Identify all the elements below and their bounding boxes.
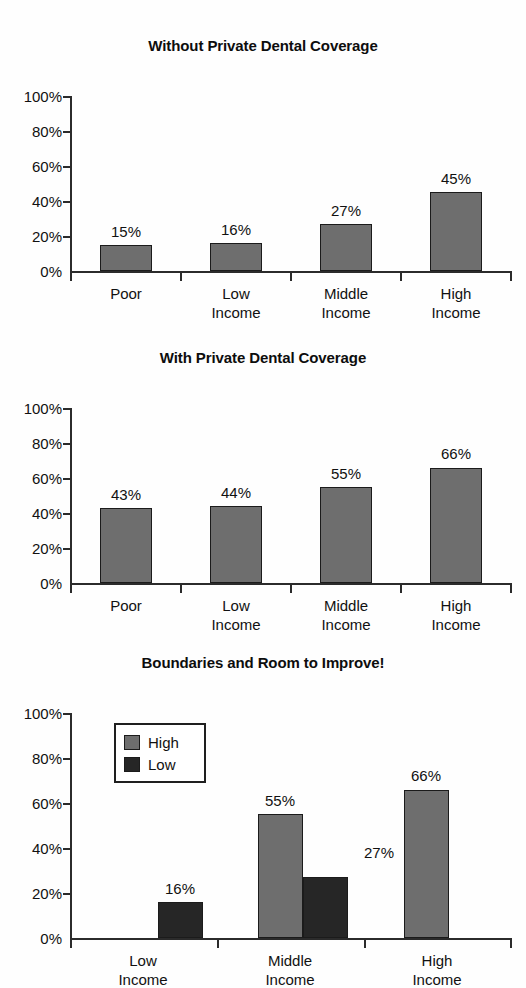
bar-value-low-income: 44%: [210, 485, 262, 501]
chart-3-title: Boundaries and Room to Improve!: [0, 653, 526, 673]
y-tick-label-20: 20%: [0, 229, 62, 244]
bar-value-high-income-high: 66%: [396, 768, 456, 784]
y-tick-label-0: 0%: [0, 576, 62, 591]
chart-3-x-tick-2: [364, 940, 366, 948]
chart-2-category-low-income-line2: Income: [186, 615, 286, 634]
bar-value-low-income-low: 16%: [150, 881, 210, 897]
chart-without-private-dental-coverage: Without Private Dental Coverage 100% 80%…: [0, 36, 526, 316]
chart-1-x-tick-2: [290, 273, 292, 281]
y-tick-label-20: 20%: [0, 886, 62, 901]
page-bottom-artifact: [120, 975, 410, 981]
chart-1-category-middle-income: Middle Income: [296, 284, 396, 322]
legend-item-low[interactable]: Low: [124, 753, 194, 775]
y-tick-label-100: 100%: [0, 401, 62, 416]
chart-3-category-middle-income-line1: Middle: [240, 951, 340, 970]
y-tick-label-60: 60%: [0, 796, 62, 811]
chart-3-y-axis-line: [70, 713, 72, 940]
chart-2-x-tick-0: [70, 585, 72, 593]
chart-2-category-poor: Poor: [76, 596, 176, 615]
bar-value-middle-income: 27%: [320, 203, 372, 219]
y-tick-label-40: 40%: [0, 841, 62, 856]
chart-1-category-middle-income-line1: Middle: [296, 284, 396, 303]
y-tick-label-0: 0%: [0, 931, 62, 946]
chart-3-y-tick-40: [63, 848, 70, 850]
chart-3-y-tick-100: [63, 713, 70, 715]
chart-3-category-high-income: High Income: [387, 951, 487, 988]
bar-high-income-high: [404, 790, 449, 939]
chart-3-x-tick-1: [217, 940, 219, 948]
chart-1-x-tick-4: [510, 273, 512, 281]
chart-2-y-tick-100: [63, 408, 70, 410]
y-tick-label-0: 0%: [0, 264, 62, 279]
bar-value-high-income: 66%: [430, 446, 482, 462]
bar-value-middle-income-high: 55%: [250, 793, 310, 809]
chart-3-category-low-income: Low Income: [93, 951, 193, 988]
chart-2-category-middle-income-line1: Middle: [296, 596, 396, 615]
chart-1-y-tick-100: [63, 96, 70, 98]
chart-1-category-low-income-line2: Income: [186, 303, 286, 322]
chart-2-x-tick-4: [510, 585, 512, 593]
y-tick-label-80: 80%: [0, 751, 62, 766]
chart-1-x-tick-3: [400, 273, 402, 281]
chart-3-y-tick-60: [63, 803, 70, 805]
bar-value-high-income: 45%: [430, 171, 482, 187]
chart-3-category-high-income-line1: High: [387, 951, 487, 970]
chart-1-x-tick-0: [70, 273, 72, 281]
chart-2-category-low-income-line1: Low: [186, 596, 286, 615]
chart-2-x-tick-2: [290, 585, 292, 593]
chart-1-category-middle-income-line2: Income: [296, 303, 396, 322]
legend-label-high: High: [148, 735, 179, 750]
chart-2-category-high-income-line1: High: [406, 596, 506, 615]
chart-2-category-high-income-line2: Income: [406, 615, 506, 634]
chart-1-y-tick-80: [63, 131, 70, 133]
bar-low-income: [210, 243, 262, 271]
legend-item-high[interactable]: High: [124, 731, 194, 753]
chart-1-y-tick-20: [63, 236, 70, 238]
bar-value-middle-income: 55%: [320, 466, 372, 482]
chart-2-title: With Private Dental Coverage: [0, 348, 526, 368]
bar-poor: [100, 245, 152, 271]
chart-3-legend: High Low: [114, 723, 206, 783]
chart-2-category-middle-income-line2: Income: [296, 615, 396, 634]
chart-2-category-poor-line1: Poor: [76, 596, 176, 615]
chart-2-y-axis-line: [70, 408, 72, 585]
chart-2-x-tick-1: [180, 585, 182, 593]
bar-middle-income-high: [258, 814, 303, 938]
chart-2-y-tick-40: [63, 513, 70, 515]
legend-swatch-high-icon: [124, 735, 140, 750]
chart-with-private-dental-coverage: With Private Dental Coverage 100% 80% 60…: [0, 348, 526, 628]
bar-middle-income-low: [303, 877, 348, 938]
chart-3-y-tick-80: [63, 758, 70, 760]
y-tick-label-100: 100%: [0, 706, 62, 721]
chart-3-x-axis-line: [70, 938, 512, 940]
figure-page: Without Private Dental Coverage 100% 80%…: [0, 0, 526, 988]
chart-2-x-tick-3: [400, 585, 402, 593]
legend-swatch-low-icon: [124, 757, 140, 772]
bar-low-income-low: [158, 902, 203, 938]
bar-poor: [100, 508, 152, 583]
legend-label-low: Low: [148, 757, 176, 772]
chart-2-category-middle-income: Middle Income: [296, 596, 396, 634]
chart-1-category-high-income-line2: Income: [406, 303, 506, 322]
chart-1-y-axis-line: [70, 96, 72, 273]
chart-1-category-high-income-line1: High: [406, 284, 506, 303]
y-tick-label-80: 80%: [0, 436, 62, 451]
y-tick-label-80: 80%: [0, 124, 62, 139]
bar-value-low-income: 16%: [210, 222, 262, 238]
y-tick-label-60: 60%: [0, 159, 62, 174]
chart-2-y-tick-60: [63, 478, 70, 480]
chart-2-category-high-income: High Income: [406, 596, 506, 634]
chart-1-category-low-income: Low Income: [186, 284, 286, 322]
chart-3-x-tick-0: [70, 940, 72, 948]
chart-1-x-tick-1: [180, 273, 182, 281]
chart-boundaries-and-room-to-improve: Boundaries and Room to Improve! 100% 80%…: [0, 653, 526, 973]
chart-1-category-poor: Poor: [76, 284, 176, 303]
bar-value-poor: 43%: [100, 487, 152, 503]
bar-low-income: [210, 506, 262, 583]
chart-3-category-low-income-line1: Low: [93, 951, 193, 970]
y-tick-label-100: 100%: [0, 89, 62, 104]
chart-2-y-tick-80: [63, 443, 70, 445]
y-tick-label-40: 40%: [0, 506, 62, 521]
bar-middle-income: [320, 224, 372, 271]
chart-2-y-tick-20: [63, 548, 70, 550]
